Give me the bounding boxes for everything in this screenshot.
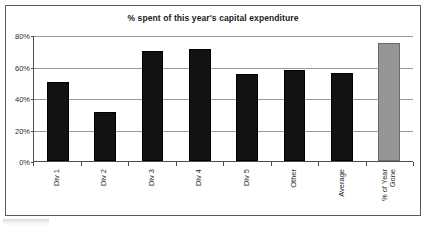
x-axis-label: Div 1 <box>53 169 61 186</box>
bar-slot <box>271 36 318 161</box>
x-label-slot: Div 2 <box>81 167 129 213</box>
x-tick-mark <box>271 162 272 166</box>
y-axis-labels: 0%20%40%60%80% <box>6 36 32 162</box>
x-axis-label: Div 2 <box>100 169 108 186</box>
bar[interactable] <box>47 82 69 161</box>
bar-slot <box>34 36 81 161</box>
x-label-slot: Average <box>318 167 366 213</box>
bar-series <box>34 36 413 161</box>
plot-wrapper: 0%20%40%60%80% Div 1Div 2Div 3Div 4Div 5… <box>6 6 420 215</box>
bar-slot <box>366 36 413 161</box>
x-tick-mark <box>33 162 34 166</box>
x-axis-label: Div 3 <box>148 169 156 186</box>
scan-artifact <box>3 219 49 226</box>
x-tick-mark <box>318 162 319 166</box>
x-axis-label: Other <box>290 169 298 188</box>
x-axis-label: Div 4 <box>195 169 203 186</box>
bar-slot <box>176 36 223 161</box>
y-tick-label: 0% <box>19 158 30 167</box>
x-axis-labels: Div 1Div 2Div 3Div 4Div 5OtherAverage% o… <box>33 167 413 213</box>
chart-frame: % spent of this year's capital expenditu… <box>5 5 421 216</box>
x-tick-mark <box>176 162 177 166</box>
x-tick-mark <box>81 162 82 166</box>
y-tick-label: 40% <box>15 95 30 104</box>
bar[interactable] <box>142 51 164 161</box>
bar-slot <box>81 36 128 161</box>
bar[interactable] <box>236 74 258 161</box>
x-label-slot: Other <box>271 167 319 213</box>
x-axis-label: Div 5 <box>243 169 251 186</box>
bar-slot <box>318 36 365 161</box>
bar[interactable] <box>94 112 116 161</box>
plot-area <box>33 36 413 162</box>
x-tick-mark <box>366 162 367 166</box>
x-label-slot: % of YearGone <box>366 167 414 213</box>
bar-slot <box>224 36 271 161</box>
bar-slot <box>129 36 176 161</box>
x-axis-ticks <box>33 162 413 166</box>
y-tick-label: 20% <box>15 126 30 135</box>
x-label-slot: Div 1 <box>33 167 81 213</box>
y-tick-label: 80% <box>15 32 30 41</box>
x-axis-label: Average <box>338 169 346 197</box>
x-tick-mark <box>128 162 129 166</box>
x-label-slot: Div 3 <box>128 167 176 213</box>
bar[interactable] <box>331 73 353 161</box>
x-tick-mark <box>413 162 414 166</box>
bar[interactable] <box>378 43 400 161</box>
x-axis-label: % of YearGone <box>381 169 397 201</box>
bar[interactable] <box>189 49 211 161</box>
x-label-slot: Div 5 <box>223 167 271 213</box>
bar[interactable] <box>284 70 306 161</box>
y-tick-label: 60% <box>15 63 30 72</box>
x-label-slot: Div 4 <box>176 167 224 213</box>
x-tick-mark <box>223 162 224 166</box>
